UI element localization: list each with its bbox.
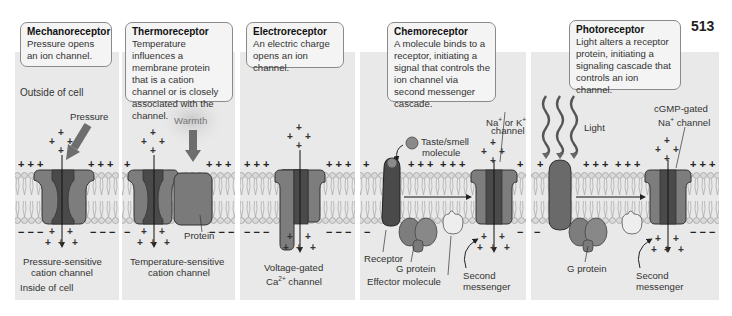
g-protein-label-chemo: G protein [396, 263, 435, 275]
svg-text:+ + +: + + + [206, 158, 231, 170]
svg-text:+: + [296, 242, 302, 253]
svg-text:+: + [287, 131, 293, 142]
cgmp-channel-label-1: cGMP-gated [654, 103, 708, 115]
inside-of-cell-label: Inside of cell [20, 282, 73, 294]
pressure-arrow [74, 125, 88, 148]
svg-text:− − −: − − − [244, 226, 269, 238]
svg-text:+: + [305, 231, 311, 242]
mechanoreceptor-description: Pressure opens an ion channel. [27, 38, 94, 61]
svg-text:+: + [296, 140, 302, 151]
svg-text:+: + [49, 226, 55, 237]
svg-text:+: + [137, 237, 143, 248]
svg-text:+: + [655, 233, 661, 244]
temperature-channel-label-2: cation channel [148, 267, 210, 279]
second-messenger-label-chemo-2: messenger [463, 281, 510, 293]
second-messenger-label-photo-1: Second [636, 270, 669, 282]
svg-text:+ + +: + + + [440, 158, 465, 170]
photoreceptor-box: Photoreceptor Light alters a receptor pr… [569, 20, 681, 90]
mechanoreceptor-title: Mechanoreceptor [27, 26, 106, 38]
light-label: Light [584, 122, 605, 134]
svg-text:− − −: − − − [90, 226, 115, 238]
svg-text:+ + +: + + + [326, 158, 351, 170]
svg-text:+: + [673, 233, 679, 244]
svg-text:− − −: − − − [690, 226, 715, 238]
chemoreceptor-description: A molecule binds to a receptor, initiati… [394, 38, 490, 109]
protein-shape [174, 173, 212, 225]
photoreceptor-title: Photoreceptor [576, 24, 675, 36]
light-waves [543, 96, 577, 154]
svg-text:+: + [481, 146, 487, 157]
pressure-sensitive-channel [34, 170, 94, 224]
svg-text:+: + [67, 136, 73, 147]
pressure-label: Pressure [70, 111, 108, 123]
taste-molecule [406, 137, 418, 149]
warmth-label: Warmth [174, 115, 207, 127]
svg-text:+: + [481, 231, 487, 242]
svg-text:+ + +: + + + [88, 158, 113, 170]
second-messenger-label-chemo-1: Second [463, 270, 496, 282]
svg-text:+ + +: + + + [408, 158, 433, 170]
svg-text:+: + [67, 226, 73, 237]
chemoreceptor-title: Chemoreceptor [394, 26, 490, 38]
svg-text:+: + [283, 242, 289, 253]
svg-text:+: + [45, 237, 51, 248]
effector-molecule-label: Effector molecule [367, 276, 441, 288]
svg-text:+: + [477, 242, 483, 253]
svg-text:+ + +: + + + [18, 158, 43, 170]
svg-text:+: + [164, 237, 170, 248]
svg-text:+: + [490, 155, 496, 166]
svg-text:+: + [504, 242, 510, 253]
photoreceptor-protein [549, 160, 571, 230]
g-protein-shape [399, 218, 437, 252]
thermoreceptor-box: Thermoreceptor Temperature influences a … [125, 22, 233, 102]
na-k-channel-label-2: channel [491, 125, 525, 137]
protein-label: Protein [184, 230, 214, 242]
thermoreceptor-title: Thermoreceptor [132, 26, 227, 38]
photoreceptor-description: Light alters a receptor protein, initiat… [576, 36, 671, 95]
voltage-gated-label-1: Voltage-gated [264, 262, 323, 274]
receptor-shape [382, 158, 400, 226]
pressure-channel-label-1: Pressure-sensitive [23, 256, 102, 268]
electroreceptor-title: Electroreceptor [253, 26, 338, 38]
temperature-channel-label-1: Temperature-sensitive [130, 256, 224, 268]
svg-text:+: + [159, 136, 165, 147]
svg-text:+: + [159, 226, 165, 237]
svg-text:+ + +: + + + [244, 158, 269, 170]
svg-text:+ + +: + + + [615, 158, 640, 170]
outside-of-cell-label: Outside of cell [20, 87, 83, 99]
svg-text:+: + [58, 127, 64, 138]
cgmp-channel-label-2: Na+ channel [658, 114, 710, 129]
svg-text:+: + [363, 158, 369, 170]
svg-text:+: + [499, 146, 505, 157]
svg-text:+: + [517, 158, 523, 170]
temperature-sensitive-channel [128, 170, 212, 225]
pressure-channel-label-2: cation channel [31, 267, 93, 279]
svg-text:+: + [141, 226, 147, 237]
g-protein-label-photo: G protein [567, 263, 606, 275]
svg-text:+: + [664, 244, 670, 255]
taste-molecule-label-1: Taste/smell [421, 136, 469, 148]
svg-text:+: + [150, 237, 156, 248]
svg-text:+: + [664, 153, 670, 164]
svg-text:−: − [517, 226, 523, 238]
svg-text:+: + [499, 231, 505, 242]
svg-text:+ + +: + + + [583, 158, 608, 170]
svg-text:+: + [287, 231, 293, 242]
svg-text:+: + [72, 237, 78, 248]
svg-text:−: − [534, 226, 540, 238]
svg-text:+ + +: + + + [690, 158, 715, 170]
membrane-bilayer [15, 172, 719, 224]
electroreceptor-box: Electroreceptor An electric charge opens… [246, 22, 344, 68]
svg-text:+: + [678, 244, 684, 255]
svg-text:+: + [537, 158, 543, 170]
svg-text:+: + [490, 242, 496, 253]
svg-text:+: + [490, 137, 496, 148]
svg-text:− − −: − − − [326, 226, 351, 238]
svg-text:− − −: − − − [18, 226, 43, 238]
svg-text:−: − [124, 226, 130, 238]
svg-text:+: + [651, 244, 657, 255]
second-messenger-label-photo-2: messenger [636, 281, 683, 293]
svg-text:+: + [655, 144, 661, 155]
electroreceptor-description: An electric charge opens an ion channel. [253, 38, 330, 73]
svg-text:+: + [141, 136, 147, 147]
